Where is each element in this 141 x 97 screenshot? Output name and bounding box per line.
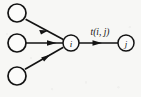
node-source-top	[8, 4, 26, 22]
arrowhead-top-in	[39, 30, 48, 35]
edge-source-middle-to-hub	[26, 40, 63, 46]
node-circle-source-bottom	[8, 67, 26, 85]
edge-hub-to-target: t(i, j)	[79, 27, 118, 46]
arrowhead-bottom-in	[41, 55, 50, 62]
edge-source-bottom-to-hub	[25, 47, 63, 69]
node-circle-source-middle	[8, 34, 26, 52]
edge-source-top-to-hub	[26, 19, 64, 39]
node-edge-diagram: t(i, j) i j	[0, 0, 141, 97]
edge-line-top-in	[26, 19, 64, 39]
node-source-bottom	[8, 67, 26, 85]
node-target-j: j	[118, 35, 134, 51]
arrowhead-hub-to-target	[93, 40, 103, 46]
arrowhead-middle-in	[47, 40, 57, 46]
figure-canvas: t(i, j) i j	[0, 0, 141, 97]
node-hub-i: i	[63, 35, 79, 51]
node-circle-source-top	[8, 4, 26, 22]
node-label-target-j: j	[124, 39, 128, 49]
edge-label-t-i-j: t(i, j)	[91, 27, 110, 38]
node-source-middle	[8, 34, 26, 52]
